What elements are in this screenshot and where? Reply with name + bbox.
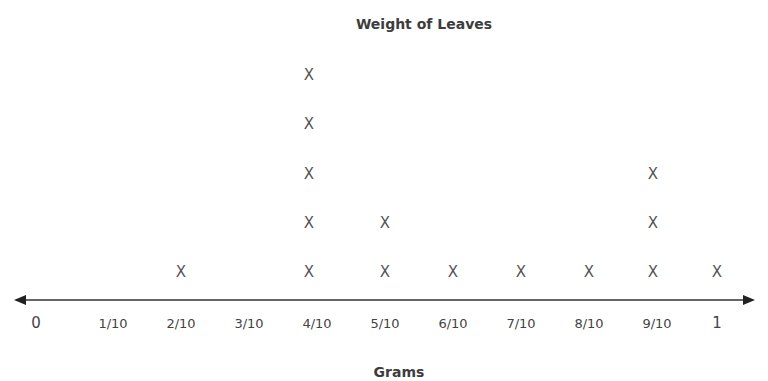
x-mark: X: [648, 263, 658, 281]
x-mark: X: [712, 263, 722, 281]
x-mark: X: [584, 263, 594, 281]
tick-label: 7/10: [506, 316, 535, 331]
x-mark: X: [304, 263, 314, 281]
x-axis-label: Grams: [0, 364, 768, 380]
tick-label: 2/10: [166, 316, 195, 331]
tick-label: 6/10: [438, 316, 467, 331]
x-mark: X: [380, 263, 390, 281]
x-mark: X: [516, 263, 526, 281]
x-mark: X: [648, 214, 658, 232]
x-mark: X: [304, 214, 314, 232]
tick-label: 1/10: [98, 316, 127, 331]
tick-label: 5/10: [370, 316, 399, 331]
tick-label: 9/10: [642, 316, 671, 331]
tick-label: 4/10: [302, 316, 331, 331]
right-arrow-icon: [743, 295, 755, 305]
x-mark: X: [304, 165, 314, 183]
x-mark: X: [304, 66, 314, 84]
x-mark: X: [304, 115, 314, 133]
x-mark: X: [648, 165, 658, 183]
tick-label: 1: [712, 314, 722, 332]
x-mark: X: [448, 263, 458, 281]
x-mark: X: [176, 263, 186, 281]
tick-label: 0: [31, 314, 41, 332]
x-mark: X: [380, 214, 390, 232]
tick-label: 3/10: [234, 316, 263, 331]
left-arrow-icon: [14, 295, 26, 305]
tick-label: 8/10: [574, 316, 603, 331]
